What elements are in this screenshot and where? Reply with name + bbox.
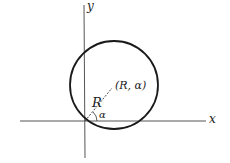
angle-arc (93, 112, 97, 121)
polar-circle-diagram: y x (R, α) R α (0, 0, 230, 163)
y-axis-label: y (87, 0, 94, 12)
radius-label: R (92, 96, 102, 109)
y-axis (84, 5, 85, 158)
point-label: (R, α) (115, 80, 146, 91)
angle-label: α (99, 110, 106, 120)
x-axis-label: x (209, 113, 216, 125)
